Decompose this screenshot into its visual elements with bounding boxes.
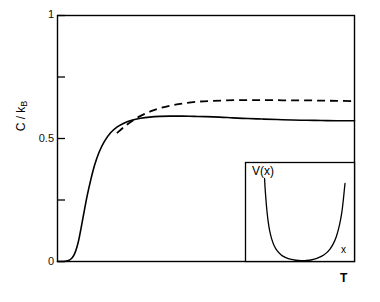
y-tick-label-0: 0 [48, 256, 54, 267]
inset-x-axis-label: x [341, 245, 346, 255]
inset-y-axis-label: V(x) [252, 165, 274, 177]
y-axis-label-main: C / k [14, 107, 28, 132]
x-axis-label: T [340, 272, 347, 284]
y-axis-ticks [58, 16, 66, 262]
chart-canvas [0, 0, 380, 302]
y-axis-label-subscript: B [19, 101, 29, 107]
y-tick-label-05: 0.5 [39, 133, 54, 144]
y-tick-label-1: 1 [48, 9, 54, 20]
figure-container: 1 0.5 0 C / kB T V(x) x [0, 0, 380, 302]
y-axis-label: C / kB [15, 71, 31, 161]
